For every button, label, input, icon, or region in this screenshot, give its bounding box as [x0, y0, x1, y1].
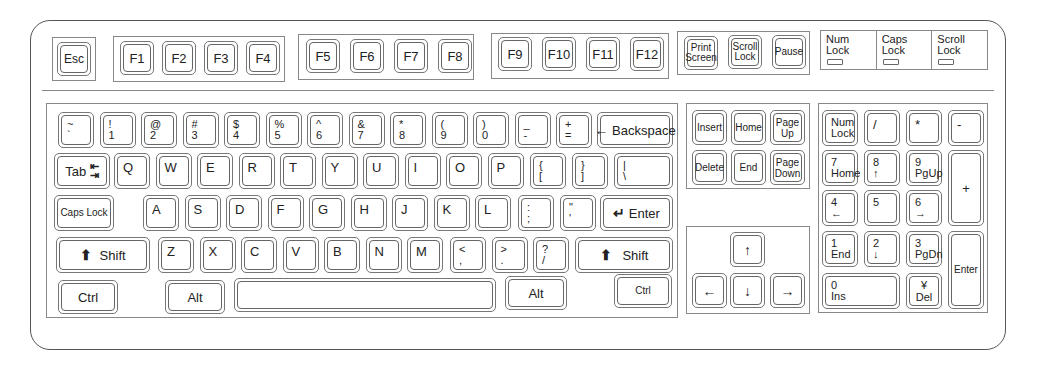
key-num-7[interactable]: &7	[349, 112, 385, 148]
key-np-plus[interactable]: +	[948, 150, 984, 226]
key-bracket-right[interactable]: }]	[572, 153, 608, 189]
key-h[interactable]: H	[351, 195, 387, 231]
key-j[interactable]: J	[392, 195, 428, 231]
key-pause[interactable]: Pause	[772, 35, 806, 69]
key-caps-lock[interactable]: Caps Lock	[54, 195, 114, 231]
key-np-4[interactable]: 4←	[822, 190, 858, 226]
key-semicolon[interactable]: :;	[518, 195, 554, 231]
key-s[interactable]: S	[185, 195, 221, 231]
key-nav-5[interactable]: PageDown	[770, 150, 805, 185]
key-e[interactable]: E	[197, 153, 233, 189]
key-num-9[interactable]: (9	[432, 112, 468, 148]
key-np-minus[interactable]: -	[948, 110, 984, 146]
key-f9[interactable]: F9	[498, 37, 532, 71]
key-r[interactable]: R	[239, 153, 275, 189]
key-num-6[interactable]: ^6	[307, 112, 343, 148]
key-bracket-left[interactable]: {[	[530, 153, 566, 189]
key-f1[interactable]: F1	[120, 41, 154, 75]
key-v[interactable]: V	[283, 237, 319, 273]
key-punct-1[interactable]: >.	[492, 237, 528, 273]
key-num-0[interactable]: ~`	[58, 112, 94, 148]
key-num-3[interactable]: #3	[183, 112, 219, 148]
key-num-8[interactable]: *8	[390, 112, 426, 148]
key-np-divide[interactable]: /	[864, 110, 900, 146]
key-enter[interactable]: ↵ Enter	[600, 195, 673, 231]
key-k[interactable]: K	[434, 195, 470, 231]
key-b[interactable]: B	[324, 237, 360, 273]
key-alt-left[interactable]: Alt	[165, 280, 225, 314]
key-f8[interactable]: F8	[438, 39, 472, 73]
key-np-3[interactable]: 3PgDn	[906, 231, 942, 267]
key-arrow-right[interactable]: →	[770, 273, 805, 308]
key-d[interactable]: D	[226, 195, 262, 231]
key-np-1[interactable]: 1End	[822, 231, 858, 267]
key-np-7[interactable]: 7Home	[822, 150, 858, 186]
key-arrow-down[interactable]: ↓	[730, 273, 765, 308]
key-punct-0[interactable]: <,	[450, 237, 486, 273]
key-nav-0[interactable]: Insert	[692, 110, 727, 145]
key-nav-2[interactable]: PageUp	[770, 110, 805, 145]
key-f7[interactable]: F7	[394, 39, 428, 73]
key-num-5[interactable]: %5	[266, 112, 302, 148]
key-ctrl-left[interactable]: Ctrl	[58, 280, 118, 314]
key-n[interactable]: N	[366, 237, 402, 273]
key-c[interactable]: C	[241, 237, 277, 273]
key-nav-4[interactable]: End	[731, 150, 766, 185]
key-ctrl-right[interactable]: Ctrl	[614, 274, 672, 308]
key-num-1[interactable]: !1	[100, 112, 136, 148]
key-f12[interactable]: F12	[630, 37, 664, 71]
key-backspace[interactable]: ← Backspace	[597, 112, 673, 148]
key-p[interactable]: P	[488, 153, 524, 189]
key-num-11[interactable]: _-	[515, 112, 551, 148]
key-space[interactable]	[234, 278, 496, 312]
key-a[interactable]: A	[143, 195, 179, 231]
key-f5[interactable]: F5	[306, 39, 340, 73]
key-u[interactable]: U	[363, 153, 399, 189]
key-quote[interactable]: "'	[560, 195, 596, 231]
key-np-8[interactable]: 8↑	[864, 150, 900, 186]
key-x[interactable]: X	[200, 237, 236, 273]
key-g[interactable]: G	[309, 195, 345, 231]
key-np-dot[interactable]: ¥Del	[906, 273, 942, 309]
key-np-0[interactable]: 0Ins	[822, 273, 900, 309]
key-num-12[interactable]: +=	[556, 112, 592, 148]
key-arrow-left[interactable]: ←	[692, 273, 727, 308]
key-o[interactable]: O	[446, 153, 482, 189]
key-esc[interactable]: Esc	[57, 42, 91, 76]
key-arrow-up[interactable]: ↑	[730, 232, 765, 267]
key-alt-right[interactable]: Alt	[505, 276, 567, 310]
key-np-multiply[interactable]: *	[906, 110, 942, 146]
key-num-4[interactable]: $4	[224, 112, 260, 148]
key-m[interactable]: M	[407, 237, 443, 273]
key-f2[interactable]: F2	[162, 41, 196, 75]
key-f[interactable]: F	[268, 195, 304, 231]
key-np-2[interactable]: 2↓	[864, 231, 900, 267]
key-tab[interactable]: Tab ⇤⇥	[54, 153, 110, 189]
key-i[interactable]: I	[405, 153, 441, 189]
key-num-10[interactable]: )0	[473, 112, 509, 148]
key-shift-right[interactable]: ⬆ Shift	[575, 237, 673, 273]
key-np-5[interactable]: 5	[864, 190, 900, 226]
key-np-9[interactable]: 9PgUp	[906, 150, 942, 186]
key-num-2[interactable]: @2	[141, 112, 177, 148]
key-num-lock[interactable]: NumLock	[822, 110, 858, 146]
key-f4[interactable]: F4	[246, 41, 280, 75]
key-shift-left[interactable]: ⬆ Shift	[56, 237, 150, 273]
key-np-6[interactable]: 6→	[906, 190, 942, 226]
key-print-screen[interactable]: PrintScreen	[684, 36, 718, 70]
key-backslash[interactable]: |\	[614, 153, 673, 189]
key-l[interactable]: L	[475, 195, 511, 231]
key-nav-3[interactable]: Delete	[692, 150, 727, 185]
key-f10[interactable]: F10	[542, 37, 576, 71]
key-nav-1[interactable]: Home	[731, 110, 766, 145]
key-f6[interactable]: F6	[350, 39, 384, 73]
key-scroll-lock[interactable]: ScrollLock	[728, 35, 762, 69]
key-np-enter[interactable]: Enter	[948, 231, 984, 309]
key-f11[interactable]: F11	[586, 37, 620, 71]
key-z[interactable]: Z	[158, 237, 194, 273]
key-f3[interactable]: F3	[204, 41, 238, 75]
key-q[interactable]: Q	[114, 153, 150, 189]
key-punct-2[interactable]: ?/	[533, 237, 569, 273]
key-w[interactable]: W	[156, 153, 192, 189]
key-y[interactable]: Y	[322, 153, 358, 189]
